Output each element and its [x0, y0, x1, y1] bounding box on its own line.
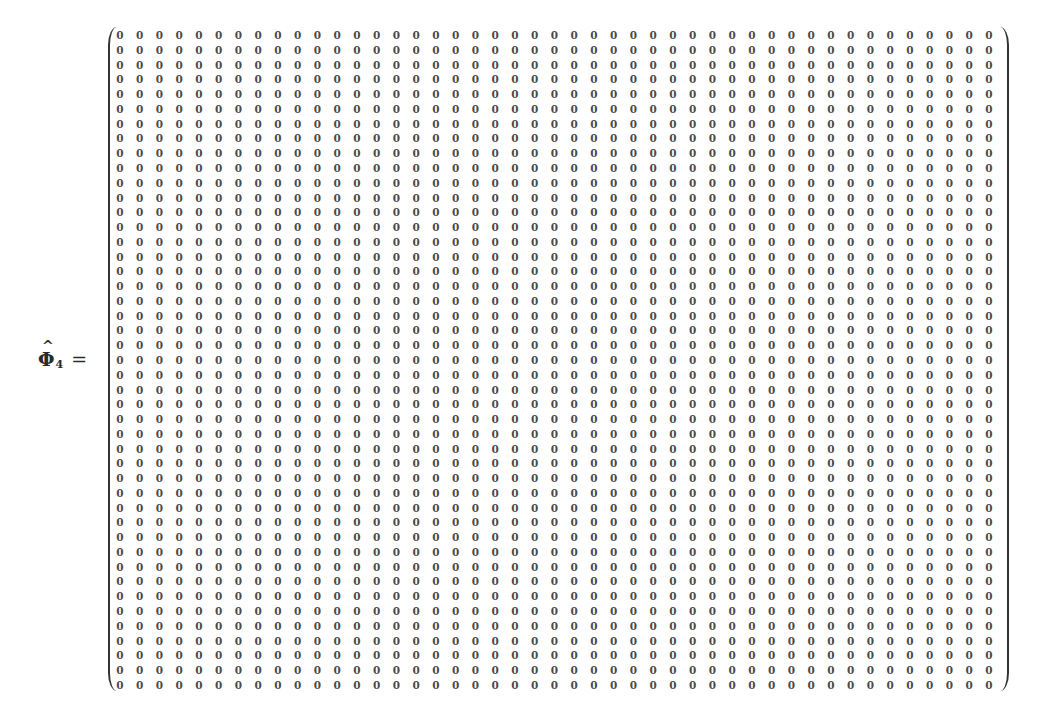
matrix-cell: 0 — [391, 190, 403, 205]
matrix-cell: 0 — [786, 560, 798, 575]
matrix-cell: 0 — [786, 619, 798, 634]
matrix-cell: 0 — [173, 249, 185, 264]
matrix-cell: 0 — [134, 382, 146, 397]
matrix-cell: 0 — [805, 309, 817, 324]
matrix-cell: 0 — [173, 146, 185, 161]
matrix-cell: 0 — [924, 427, 936, 442]
matrix-cell: 0 — [845, 131, 857, 146]
matrix-cell: 0 — [529, 249, 541, 264]
matrix-cell: 0 — [568, 486, 580, 501]
matrix-cell: 0 — [707, 146, 719, 161]
matrix-cell: 0 — [963, 58, 975, 73]
matrix-cell: 0 — [766, 397, 778, 412]
matrix-cell: 0 — [252, 279, 264, 294]
matrix-cell: 0 — [588, 338, 600, 353]
matrix-cell: 0 — [213, 220, 225, 235]
matrix-cell: 0 — [331, 309, 343, 324]
matrix-cell: 0 — [726, 663, 738, 678]
matrix-cell: 0 — [331, 220, 343, 235]
matrix-cell: 0 — [331, 72, 343, 87]
matrix-cell: 0 — [647, 279, 659, 294]
matrix-cell: 0 — [786, 441, 798, 456]
matrix-cell: 0 — [154, 279, 166, 294]
matrix-cell: 0 — [608, 648, 620, 663]
matrix-cell: 0 — [154, 190, 166, 205]
matrix-cell: 0 — [845, 397, 857, 412]
matrix-cell: 0 — [944, 279, 956, 294]
matrix-cell: 0 — [726, 264, 738, 279]
matrix-cell: 0 — [884, 368, 896, 383]
matrix-cell: 0 — [845, 633, 857, 648]
matrix-cell: 0 — [391, 648, 403, 663]
matrix-cell: 0 — [865, 58, 877, 73]
matrix-cell: 0 — [687, 633, 699, 648]
matrix-cell: 0 — [924, 323, 936, 338]
matrix-cell: 0 — [331, 560, 343, 575]
matrix-cell: 0 — [588, 412, 600, 427]
matrix-cell: 0 — [865, 663, 877, 678]
matrix-cell: 0 — [450, 146, 462, 161]
matrix-cell: 0 — [252, 648, 264, 663]
matrix-cell: 0 — [667, 146, 679, 161]
matrix-cell: 0 — [608, 663, 620, 678]
matrix-cell: 0 — [647, 146, 659, 161]
matrix-cell: 0 — [549, 323, 561, 338]
matrix-cell: 0 — [371, 161, 383, 176]
matrix-cell: 0 — [252, 471, 264, 486]
matrix-cell: 0 — [450, 72, 462, 87]
matrix-cell: 0 — [529, 117, 541, 132]
matrix-cell: 0 — [608, 353, 620, 368]
matrix-cell: 0 — [884, 486, 896, 501]
matrix-cell: 0 — [509, 515, 521, 530]
matrix-cell: 0 — [312, 545, 324, 560]
matrix-cell: 0 — [351, 338, 363, 353]
matrix-cell: 0 — [233, 530, 245, 545]
matrix-cell: 0 — [786, 249, 798, 264]
matrix-cell: 0 — [430, 663, 442, 678]
matrix-cell: 0 — [707, 486, 719, 501]
matrix-cell: 0 — [173, 486, 185, 501]
matrix-cell: 0 — [331, 633, 343, 648]
matrix-cell: 0 — [114, 220, 126, 235]
matrix-cell: 0 — [470, 323, 482, 338]
matrix-cell: 0 — [351, 28, 363, 43]
matrix-cell: 0 — [114, 102, 126, 117]
matrix-cell: 0 — [312, 28, 324, 43]
matrix-cell: 0 — [351, 427, 363, 442]
matrix-cell: 0 — [667, 353, 679, 368]
matrix-cell: 0 — [963, 28, 975, 43]
matrix-cell: 0 — [904, 72, 916, 87]
matrix-cell: 0 — [667, 235, 679, 250]
matrix-cell: 0 — [568, 323, 580, 338]
matrix-cell: 0 — [825, 530, 837, 545]
matrix-cell: 0 — [450, 205, 462, 220]
matrix-cell: 0 — [904, 294, 916, 309]
matrix-cell: 0 — [726, 309, 738, 324]
matrix-cell: 0 — [884, 515, 896, 530]
matrix-cell: 0 — [213, 117, 225, 132]
matrix-cell: 0 — [114, 589, 126, 604]
matrix-cell: 0 — [924, 604, 936, 619]
matrix-cell: 0 — [430, 353, 442, 368]
matrix-cell: 0 — [746, 456, 758, 471]
matrix-cell: 0 — [687, 515, 699, 530]
matrix-cell: 0 — [904, 397, 916, 412]
matrix-cell: 0 — [825, 382, 837, 397]
matrix-cell: 0 — [647, 205, 659, 220]
matrix-cell: 0 — [944, 397, 956, 412]
matrix-cell: 0 — [331, 353, 343, 368]
matrix-cell: 0 — [963, 294, 975, 309]
matrix-cell: 0 — [766, 309, 778, 324]
matrix-cell: 0 — [114, 663, 126, 678]
matrix-cell: 0 — [489, 87, 501, 102]
matrix-cell: 0 — [667, 87, 679, 102]
matrix-cell: 0 — [470, 279, 482, 294]
matrix-cell: 0 — [509, 72, 521, 87]
matrix-cell: 0 — [529, 161, 541, 176]
matrix-cell: 0 — [568, 678, 580, 693]
matrix-cell: 0 — [272, 456, 284, 471]
matrix-cell: 0 — [687, 87, 699, 102]
matrix-cell: 0 — [430, 117, 442, 132]
matrix-cell: 0 — [292, 235, 304, 250]
matrix-cell: 0 — [213, 530, 225, 545]
